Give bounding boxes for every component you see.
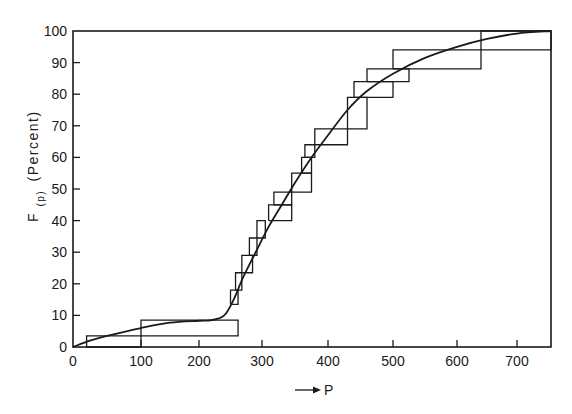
x-axis-title: P	[295, 382, 335, 398]
y-axis-title-suffix: (Percent)	[25, 110, 41, 181]
y-tick-label: 20	[51, 276, 67, 292]
x-tick-label: 0	[69, 353, 77, 369]
y-tick-label: 80	[51, 86, 67, 102]
y-axis: 0102030405060708090100	[44, 23, 80, 355]
y-tick-label: 100	[44, 23, 68, 39]
y-tick-label: 40	[51, 213, 67, 229]
y-axis-title: F (p) (Percent)	[25, 110, 47, 222]
y-tick-label: 0	[59, 339, 67, 355]
x-tick-label: 400	[316, 353, 340, 369]
y-axis-title-main: F	[25, 212, 41, 222]
y-tick-label: 50	[51, 181, 67, 197]
step-box	[141, 320, 238, 336]
x-tick-label: 500	[381, 353, 405, 369]
x-tick-label: 600	[445, 353, 469, 369]
x-tick-label: 200	[187, 353, 211, 369]
step-box	[354, 82, 393, 98]
x-tick-label: 300	[250, 353, 274, 369]
y-axis-title-sub: (p)	[35, 190, 46, 207]
step-box	[348, 97, 368, 129]
y-tick-label: 70	[51, 118, 67, 134]
arrow-head-icon	[313, 387, 321, 394]
step-box	[367, 69, 409, 82]
cdf-chart: 0102030405060708090100 01002003004005006…	[0, 0, 572, 414]
svg-text:F (p) (Percent): F (p) (Percent)	[25, 110, 47, 222]
y-tick-label: 60	[51, 149, 67, 165]
x-tick-label: 700	[505, 353, 529, 369]
x-tick-label: 100	[129, 353, 153, 369]
y-tick-label: 90	[51, 55, 67, 71]
empirical-staircase	[87, 31, 551, 347]
y-tick-label: 30	[51, 244, 67, 260]
x-axis: 0100200300400500600700	[69, 340, 529, 369]
y-tick-label: 10	[51, 307, 67, 323]
step-box	[87, 336, 141, 347]
x-axis-title-text: P	[324, 382, 335, 398]
